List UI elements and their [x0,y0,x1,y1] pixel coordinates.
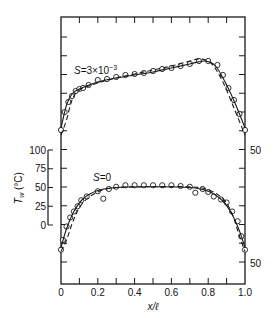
right-tick-label: 50 [250,145,262,156]
y-tick-label: 25 [35,201,47,212]
x-axis-ticks: 00.20.40.60.81.0 [58,17,252,298]
x-tick-label: 0.6 [164,287,178,298]
x-tick-label: 0.4 [128,287,142,298]
data-point [114,184,119,189]
x-tick-label: 0 [58,287,64,298]
y-tick-label: 50 [35,182,47,193]
data-point [58,127,63,132]
right-tick-label: 50 [250,258,262,269]
plot-frame [61,17,245,284]
x-axis-label: x/ℓ [146,301,159,312]
y-tick-label: 0 [40,220,46,231]
y-tick-label: 75 [35,163,47,174]
x-tick-label: 0.8 [201,287,215,298]
x-tick-label: 0.2 [91,287,105,298]
y-tick-label: 100 [29,145,46,156]
data-point [193,190,198,195]
y-axis-label: Tw (°C) [13,172,25,204]
panel-label-lower: S=0 [93,172,112,183]
data-series [58,58,247,252]
data-point [101,196,106,201]
x-tick-label: 1.0 [238,287,252,298]
chart: 00.20.40.60.81.0 1007550250 5050 x/ℓ Tw … [0,0,274,318]
panel-label-upper: S=3×10−3 [74,64,117,76]
